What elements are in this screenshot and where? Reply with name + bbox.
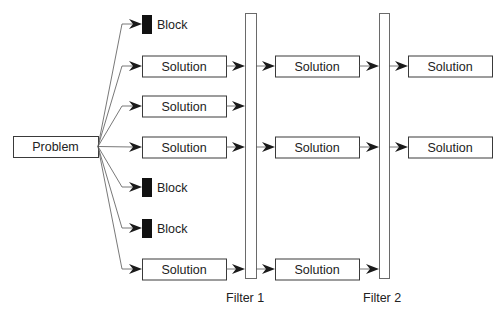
connector-arrow (226, 264, 245, 274)
solution-node: Solution (276, 259, 360, 280)
filter-label: Filter 1 (226, 291, 264, 305)
connector-arrow (256, 61, 275, 71)
solution-label: Solution (427, 60, 472, 74)
block-label: Block (157, 18, 188, 32)
problem-node: Problem (14, 137, 99, 158)
connector-arrow (98, 19, 142, 147)
solution-node: Solution (143, 259, 227, 280)
solution-label: Solution (294, 263, 339, 277)
connector-arrow (389, 61, 408, 71)
solution-node: Solution (409, 56, 493, 77)
problem-label: Problem (32, 140, 79, 154)
solution-label: Solution (161, 141, 206, 155)
idea-filtering-diagram: Filter 1Filter 2ProblemBlockSolutionSolu… (0, 0, 504, 312)
solution-node: Solution (143, 96, 227, 117)
connector-arrow (226, 61, 245, 71)
solution-node: Solution (276, 137, 360, 158)
connector-arrow (359, 61, 379, 71)
solution-node: Solution (143, 137, 227, 158)
solution-node: Solution (143, 56, 227, 77)
connector-arrow (359, 264, 379, 274)
branch-4: SolutionSolutionSolution (98, 137, 493, 158)
block-label: Block (157, 222, 188, 236)
connector-arrow (359, 142, 379, 152)
filter-bar (380, 14, 390, 279)
solution-label: Solution (294, 60, 339, 74)
solution-label: Solution (294, 141, 339, 155)
filter-label: Filter 2 (363, 291, 401, 305)
block-marker (142, 219, 152, 238)
solution-label: Solution (427, 141, 472, 155)
connector-arrow (256, 142, 275, 152)
connector-arrow (98, 142, 142, 152)
block-marker (142, 15, 152, 34)
connector-arrow (226, 101, 245, 111)
solution-label: Solution (161, 100, 206, 114)
block-marker (142, 178, 152, 197)
solution-node: Solution (276, 56, 360, 77)
connector-arrow (256, 264, 275, 274)
solution-label: Solution (161, 263, 206, 277)
filter-bar (246, 14, 257, 279)
connector-arrow (389, 142, 408, 152)
branch-7: SolutionSolution (98, 147, 379, 281)
filter-2: Filter 2 (363, 14, 401, 306)
branch-1: Block (98, 15, 188, 147)
filter-1: Filter 1 (226, 14, 264, 306)
solution-label: Solution (161, 60, 206, 74)
block-label: Block (157, 181, 188, 195)
connector-arrow (226, 142, 245, 152)
connector-arrow (98, 147, 142, 234)
solution-node: Solution (409, 137, 493, 158)
connector-arrow (98, 147, 142, 275)
